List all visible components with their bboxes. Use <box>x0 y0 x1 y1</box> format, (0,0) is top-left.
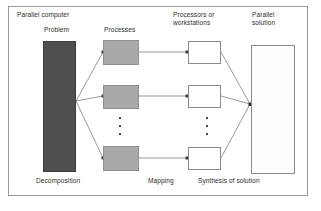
processor-ellipsis <box>206 117 208 135</box>
wire-synth-2 <box>221 96 250 104</box>
processor-box-n <box>188 147 221 170</box>
wire-problem-to-process-n <box>76 101 103 158</box>
problem-box <box>43 41 76 172</box>
label-processes: Processes <box>104 26 135 34</box>
process-box-2 <box>103 85 139 109</box>
wire-synth-1 <box>221 52 250 104</box>
wire-problem-to-process-2 <box>76 96 103 101</box>
label-parallel-computer: Parallel computer <box>17 11 69 19</box>
parallel-solution-box <box>251 45 295 174</box>
wire-synth-n <box>221 104 250 158</box>
process-box-n <box>103 146 139 171</box>
processor-box-1 <box>188 41 221 64</box>
label-problem: Problem <box>44 26 69 34</box>
label-parallel-solution: Parallel solution <box>252 11 275 27</box>
diagram-screenshot: Parallel computer Problem Processes Proc… <box>0 0 321 211</box>
process-box-1 <box>103 40 139 65</box>
label-synthesis: Synthesis of solution <box>198 177 260 185</box>
label-mapping: Mapping <box>148 177 174 185</box>
label-decomposition: Decomposition <box>36 177 80 185</box>
wire-problem-to-process-1 <box>76 52 103 101</box>
processor-box-2 <box>188 85 221 108</box>
label-processors: Processors or workstations <box>173 11 214 27</box>
process-ellipsis <box>119 117 121 135</box>
